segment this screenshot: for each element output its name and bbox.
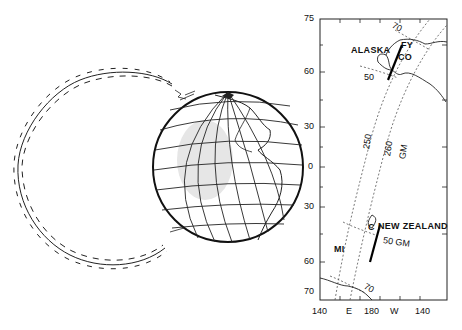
x-tick-w: W [390, 306, 399, 316]
label-c: C [368, 222, 375, 232]
x-tick-140w: 140 [415, 306, 430, 316]
label-mi: MI [334, 244, 345, 254]
label-new-zealand: NEW ZEALAND [378, 221, 448, 231]
earth-globe [153, 92, 303, 242]
y-tick-30s: 30 [304, 201, 314, 211]
label-co: CO [398, 52, 412, 62]
x-tick-140e: 140 [312, 306, 327, 316]
label-alaska: ALASKA [351, 45, 390, 55]
label-fy: FY [401, 40, 413, 50]
y-tick-0: 0 [308, 161, 313, 171]
label-lat50-north: 50 [364, 72, 374, 82]
figure-canvas [0, 0, 462, 330]
field-line-loop [14, 68, 172, 268]
y-tick-30: 30 [304, 121, 314, 131]
x-tick-180: 180 [364, 306, 379, 316]
y-tick-70s: 70 [304, 286, 314, 296]
y-tick-60: 60 [304, 66, 314, 76]
map-frame [320, 19, 447, 300]
x-tick-e: E [346, 306, 352, 316]
y-tick-60s: 60 [304, 256, 314, 266]
y-tick-75: 75 [304, 13, 314, 23]
